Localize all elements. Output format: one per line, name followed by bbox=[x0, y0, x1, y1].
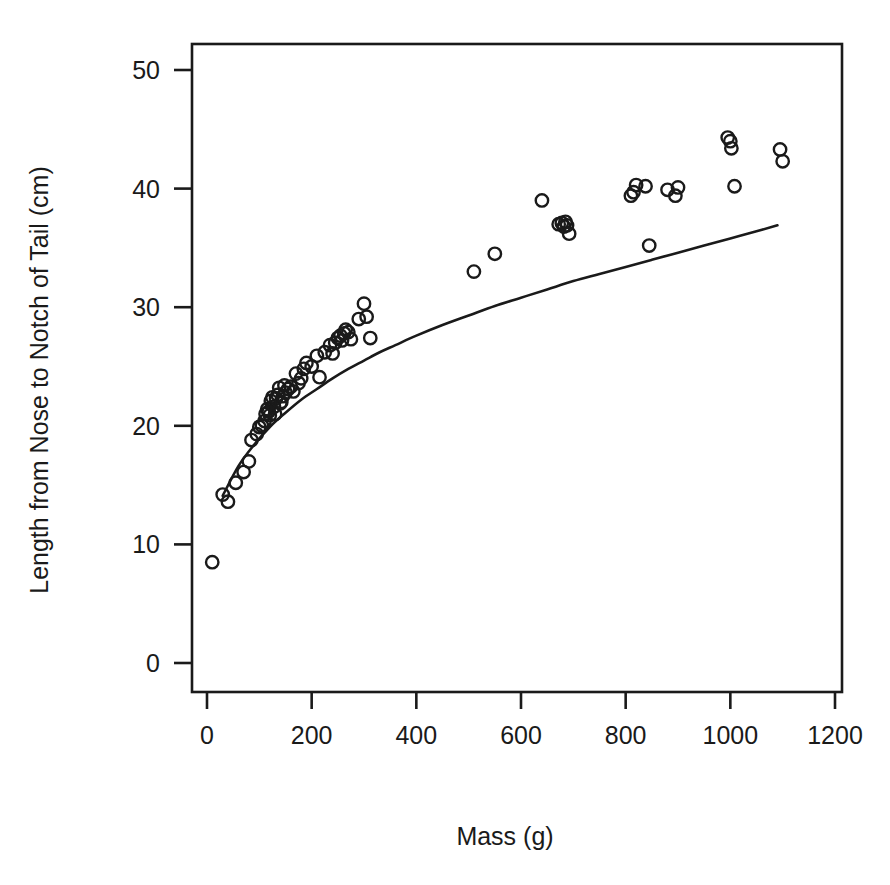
y-tick-label: 20 bbox=[132, 412, 160, 440]
x-tick-label: 1000 bbox=[703, 721, 759, 749]
plot-canvas: 020040060080010001200 01020304050 Mass (… bbox=[0, 0, 890, 885]
x-axis-title: Mass (g) bbox=[456, 822, 553, 850]
y-tick-label: 30 bbox=[132, 293, 160, 321]
y-tick-label: 50 bbox=[132, 56, 160, 84]
y-tick-label: 10 bbox=[132, 530, 160, 558]
x-tick-label: 400 bbox=[395, 721, 437, 749]
y-tick-label: 0 bbox=[146, 649, 160, 677]
scatter-plot-figure: 020040060080010001200 01020304050 Mass (… bbox=[0, 0, 890, 885]
x-tick-label: 1200 bbox=[807, 721, 863, 749]
x-tick-label: 800 bbox=[605, 721, 647, 749]
y-axis-title: Length from Nose to Notch of Tail (cm) bbox=[25, 166, 53, 594]
x-tick-label: 600 bbox=[500, 721, 542, 749]
x-tick-label: 200 bbox=[291, 721, 333, 749]
y-tick-label: 40 bbox=[132, 175, 160, 203]
plot-background bbox=[0, 0, 890, 885]
x-tick-label: 0 bbox=[200, 721, 214, 749]
